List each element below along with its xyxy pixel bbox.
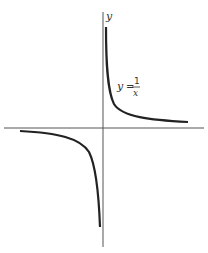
equation-denominator: x	[133, 88, 138, 98]
equation-label: y = 1 x	[116, 76, 140, 98]
equation-numerator: 1	[134, 76, 140, 86]
y-axis-label: y	[105, 10, 113, 23]
hyperbola-graph: y y = 1 x	[0, 0, 208, 253]
equation-lhs: y	[116, 80, 124, 93]
curve-branch-negative	[20, 131, 100, 227]
curve-branch-positive	[106, 27, 188, 122]
